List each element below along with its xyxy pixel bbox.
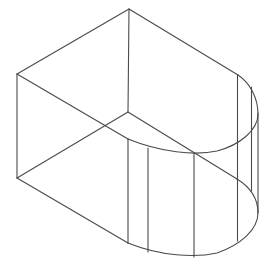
- wireframe-diagram: [0, 0, 274, 271]
- inner-to-lower-arc-edge: [128, 112, 237, 179]
- half-cylinder-block-drawing: [0, 0, 274, 271]
- upper-arc: [128, 75, 258, 153]
- inner-to-left-bottom-edge: [17, 112, 128, 178]
- top-right-edge: [129, 9, 238, 75]
- top-diagonal-edge: [17, 74, 128, 139]
- bottom-left-edge: [17, 178, 128, 243]
- back-vertical-edge: [128, 9, 129, 112]
- top-left-edge: [17, 9, 129, 74]
